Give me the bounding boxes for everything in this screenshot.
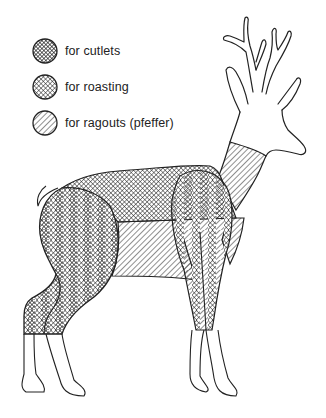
legend-item-roasting: for roasting: [32, 74, 129, 100]
crosshatch-swatch-icon: [32, 74, 58, 100]
fore-leg-right-lower: [206, 330, 237, 396]
region-shoulder: [172, 171, 232, 330]
antler-tine: [256, 40, 266, 70]
hind-leg-left-lower: [22, 334, 44, 392]
deer-cuts-diagram: for cutlets for roasting for ragouts (pf…: [0, 0, 326, 418]
legend-label: for ragouts (pfeffer): [65, 116, 174, 130]
region-haunch: [24, 188, 118, 334]
antler-right: [262, 28, 291, 94]
legend-label: for roasting: [65, 80, 129, 94]
dense-crosshatch-swatch-icon: [32, 38, 58, 64]
diagonal-hatch-swatch-icon: [32, 110, 58, 136]
legend-label: for cutlets: [65, 44, 120, 58]
legend-item-cutlets: for cutlets: [32, 38, 120, 64]
ear-right: [278, 78, 301, 110]
legend-item-ragouts: for ragouts (pfeffer): [32, 110, 174, 136]
hind-leg-right-lower: [46, 334, 85, 396]
ear-left: [226, 67, 248, 112]
fore-leg-left-lower: [190, 330, 208, 392]
